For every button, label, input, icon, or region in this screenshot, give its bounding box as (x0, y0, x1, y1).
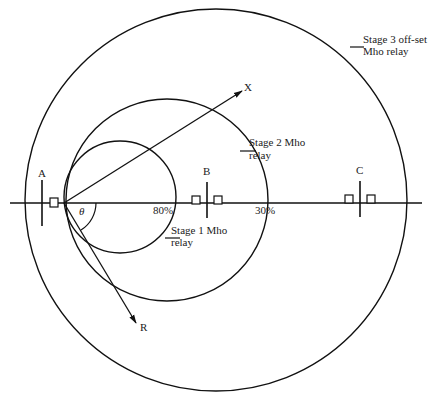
stage1-label-line1: Stage 1 Mho (171, 224, 228, 236)
bus-c-label: C (356, 164, 363, 176)
stage2-reach-label: 30% (255, 204, 275, 216)
stage2-characteristic-circle (66, 99, 268, 301)
stage3-label-line1: Stage 3 off-set (363, 33, 427, 45)
theta-label: θ (79, 205, 85, 217)
bus-b-label: B (203, 165, 210, 177)
stage1-label-line2: relay (171, 236, 193, 248)
r-axis-label: R (140, 321, 148, 333)
stage2-label-line2: relay (249, 149, 271, 161)
stage1-reach-label: 80% (153, 204, 173, 216)
bus-a-label: A (38, 167, 46, 179)
stage2-label-line1: Stage 2 Mho (249, 136, 306, 148)
x-axis-arrow (64, 91, 242, 203)
breaker-b-right (214, 196, 222, 204)
mho-relay-diagram: A B C X R θ 80% 30% Stage 1 Mho relay St… (0, 0, 434, 401)
breaker-a (50, 198, 58, 207)
stage3-label-line2: Mho relay (363, 45, 409, 57)
breaker-c-right (367, 195, 375, 203)
breaker-b-left (192, 196, 200, 204)
x-axis-label: X (244, 81, 252, 93)
r-axis-arrow (64, 203, 136, 323)
stage1-characteristic-circle (64, 141, 176, 253)
breaker-c-left (345, 195, 353, 203)
